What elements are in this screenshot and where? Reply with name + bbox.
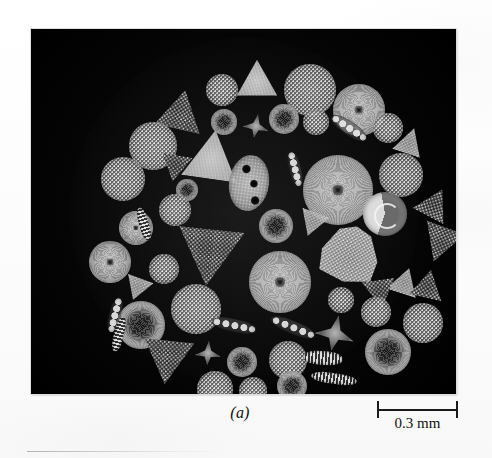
diatom-spiral-1	[363, 192, 407, 236]
diatom-centric-radial-large-2	[249, 251, 311, 313]
diatom-centric-porous-9	[149, 254, 179, 284]
diatom-centric-porous-5	[303, 109, 329, 135]
ocellus-3	[250, 196, 260, 206]
diatom-centric-porous-11	[171, 284, 221, 334]
page-rule	[27, 451, 227, 452]
diatom-centric-porous-1	[206, 74, 238, 106]
scale-bar-label: 0.3 mm	[377, 415, 458, 432]
diatom-centric-ring-6	[227, 347, 257, 377]
scanned-page: (a) 0.3 mm	[0, 0, 492, 458]
diatom-centric-porous-8	[159, 194, 191, 226]
diatom-centric-ring-7	[365, 329, 411, 375]
scale-bar-line	[377, 409, 458, 411]
diatom-centric-ring-8	[277, 371, 307, 394]
diatom-centric-ring-2	[269, 104, 299, 134]
diatom-centric-porous-10	[328, 287, 354, 313]
micrograph-plate	[31, 29, 456, 394]
diatom-centric-porous-13	[403, 303, 443, 343]
diatom-centric-radial-3	[89, 241, 131, 283]
ocellus-1	[242, 164, 252, 174]
figure-caption: (a)	[190, 404, 290, 422]
diatom-centric-porous-7	[379, 153, 423, 197]
diatom-centric-ring-4	[259, 209, 293, 243]
ocellus-2	[249, 179, 258, 188]
diatom-centric-porous-12	[361, 297, 391, 327]
scale-bar: 0.3 mm	[377, 401, 458, 439]
diatom-centric-porous-3	[373, 113, 403, 143]
diatom-centric-porous-6	[101, 157, 145, 201]
diatom-annulus-1	[79, 204, 119, 244]
